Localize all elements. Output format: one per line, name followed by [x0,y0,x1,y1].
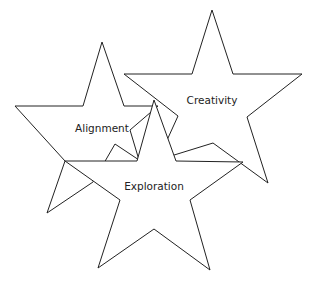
creativity-label: Creativity [187,94,238,106]
exploration-label: Exploration [124,180,184,192]
star-diagram: Alignment Creativity Exploration [0,0,316,282]
alignment-label: Alignment [75,122,129,134]
